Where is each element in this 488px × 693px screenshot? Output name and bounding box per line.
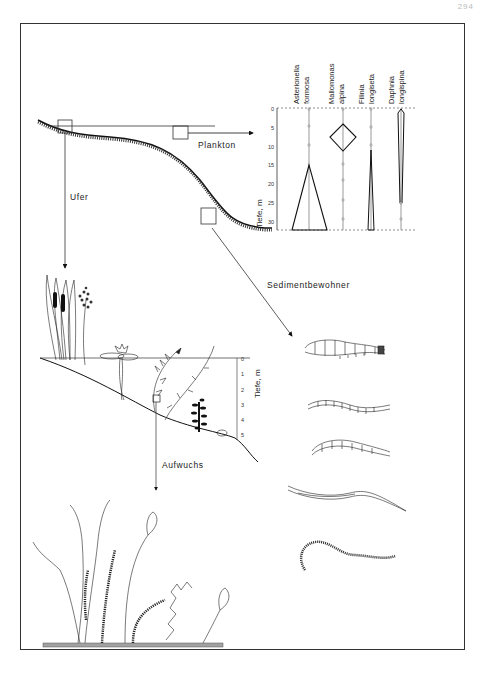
worm-larva-2 [312,440,390,456]
tick-15: 15 [268,162,274,168]
species-label: longiseta [367,73,376,104]
littoral-axis-label: Tiefe, m [253,369,262,398]
littoral-tick: 0 [241,356,244,362]
littoral-tick: 4 [241,417,244,423]
periphyton-detail [33,500,229,647]
oligochaete [301,542,395,570]
cattail-head [61,294,65,312]
cattail-head [53,292,57,308]
littoral-zone: 0 1 2 3 4 5 Tiefe, m [40,275,262,490]
sediment-organisms [288,340,406,570]
chironomid-larva [305,340,385,359]
tick-20: 20 [268,181,274,187]
tick-0: 0 [271,106,274,112]
littoral-tick: 3 [241,402,244,408]
species-label: Mallomonas [327,63,336,104]
tick-10: 10 [268,144,274,150]
flowering-plant [79,287,93,365]
aufwuchs-label: Aufwuchs [162,460,204,470]
species-label: formosa [302,76,311,104]
littoral-tick: 1 [241,371,244,377]
plankton-axis-label: Tiefe, m [255,199,264,228]
worm-larva-1 [308,400,390,414]
tick-30: 30 [268,219,274,225]
plankton-label: Plankton [198,140,236,150]
aufwuchs-sample-box [153,395,160,402]
lake-profile [38,120,292,336]
species-label: Asterionella [292,64,301,104]
sediment-sample-box [201,208,216,224]
ufer-label: Ufer [70,192,88,202]
nematode [288,486,406,511]
species-label: Daphnia [387,75,396,104]
tick-5: 5 [271,125,274,131]
plankton-sample-box [173,126,188,139]
plankton-depth-chart: 0 5 10 15 20 25 30 Tiefe, m Asterionella… [255,63,416,230]
water-lily [100,344,138,400]
tick-25: 25 [268,200,274,206]
substrate-surface [43,643,223,647]
sediment-label: Sedimentbewohner [267,280,350,290]
species-label: longispina [397,69,406,104]
species-label: Filinia [357,84,366,104]
reed-plants [46,275,75,360]
littoral-tick: 5 [241,432,244,438]
ecosystem-diagram: Plankton Ufer Sedimentbewohner 0 5 10 15… [0,0,488,693]
asterionella-profile [292,165,327,230]
dark-submerged-plant [191,399,207,433]
species-label: alpina [337,83,346,104]
littoral-tick: 2 [241,387,244,393]
